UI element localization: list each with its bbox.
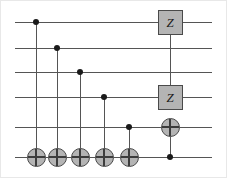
cnot-3-target [71, 148, 90, 167]
cnot-4-target-cross-horizontal [96, 156, 113, 157]
cnot-3-control-dot [77, 69, 83, 75]
z-gate-qubit-0: Z [158, 10, 183, 35]
cnot-1-target [27, 148, 46, 167]
cnot-1-control-dot [33, 19, 39, 25]
cnot-3-target-cross-horizontal [72, 156, 89, 157]
cnot-2-link [57, 48, 58, 157]
cnot-4-target [95, 148, 114, 167]
cnot-5-target-cross-horizontal [121, 156, 138, 157]
cnot-6-target-cross-horizontal [162, 126, 179, 127]
qubit-wire-2 [15, 72, 212, 73]
cnot-2-target [48, 148, 67, 167]
cnot-1-link [36, 22, 37, 157]
qubit-wire-1 [15, 48, 212, 49]
z-gate-qubit-3: Z [158, 85, 183, 110]
cnot-4-control-dot [101, 94, 107, 100]
cnot-1-target-cross-horizontal [28, 156, 45, 157]
cnot-6-control-dot [167, 154, 173, 160]
cnot-3-link [80, 72, 81, 157]
cnot-2-target-cross-horizontal [49, 156, 66, 157]
qubit-wire-4 [15, 127, 212, 128]
cnot-2-control-dot [54, 45, 60, 51]
cnot-6-target [161, 118, 180, 137]
cnot-5-control-dot [126, 124, 132, 130]
quantum-circuit-figure: Z Z [0, 0, 228, 179]
cnot-5-target [120, 148, 139, 167]
